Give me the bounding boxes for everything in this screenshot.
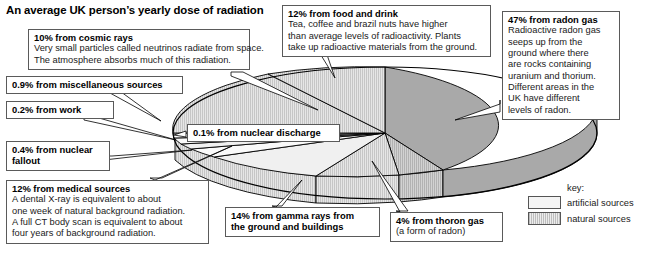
callout-nuclear-fallout: 0.4% from nuclear fallout <box>6 141 110 171</box>
leader-work <box>84 116 176 140</box>
callout-thoron-line-1: (a form of radon) <box>396 226 498 237</box>
callout-radon-line-7: UK have different <box>508 93 615 104</box>
legend-item-natural-sources: natural sources <box>528 212 634 225</box>
callout-food-line-1: Tea, coffee and brazil nuts have higher <box>288 19 486 30</box>
callout-gamma-heading-2: the ground and buildings <box>231 221 375 232</box>
callout-cosmic-heading: 10% from cosmic rays <box>34 32 245 43</box>
callout-thoron-body: (a form of radon) <box>396 226 498 237</box>
callout-nuclear-discharge: 0.1% from nuclear discharge <box>187 124 340 142</box>
callout-radon-line-8: levels of radon. <box>508 105 615 116</box>
callout-food-line-3: take up radioactive materials from the g… <box>288 42 486 53</box>
callout-thoron-gas: 4% from thoron gas (a form of radon) <box>390 212 503 242</box>
legend-title: key: <box>567 183 634 193</box>
callout-nuclear-heading: 0.1% from nuclear discharge <box>193 127 335 138</box>
legend-label-natural: natural sources <box>567 214 631 224</box>
callout-cosmic-body: Very small particles called neutrinos ra… <box>34 43 245 66</box>
callout-misc-heading: 0.9% from miscellaneous sources <box>12 79 178 90</box>
callout-radon-line-5: uranium and thorium. <box>508 71 615 82</box>
callout-fallout-heading: 0.4% from nuclear <box>12 144 105 155</box>
legend-swatch-natural <box>528 212 561 225</box>
legend: key: artificial sources natural sources <box>528 183 634 228</box>
page-title: An average UK person’s yearly dose of ra… <box>6 4 264 16</box>
callout-radon-gas: 47% from radon gas Radioactive radon gas… <box>502 11 620 120</box>
callout-radon-line-3: ground where there <box>508 48 615 59</box>
callout-work: 0.2% from work <box>6 101 114 119</box>
callout-medical-line-1: A dental X-ray is equivalent to about <box>12 194 204 205</box>
callout-thoron-heading: 4% from thoron gas <box>396 215 498 226</box>
callout-medical-body: A dental X-ray is equivalent to about on… <box>12 194 204 239</box>
callout-food-body: Tea, coffee and brazil nuts have higher … <box>288 19 486 53</box>
callout-medical-heading: 12% from medical sources <box>12 183 204 194</box>
callout-radon-heading: 47% from radon gas <box>508 14 615 25</box>
callout-food-heading: 12% from food and drink <box>288 8 486 19</box>
callout-cosmic-line-1: Very small particles called neutrinos ra… <box>34 43 245 54</box>
callout-medical-line-3: A full CT body scan is equivalent to abo… <box>12 217 204 228</box>
callout-work-heading: 0.2% from work <box>12 104 109 115</box>
legend-item-artificial-sources: artificial sources <box>528 196 634 209</box>
legend-swatch-artificial <box>528 196 561 209</box>
radiation-pie-figure: An average UK person’s yearly dose of ra… <box>0 0 656 262</box>
callout-food-line-2: than average levels of radioactivity. Pl… <box>288 31 486 42</box>
callout-gamma-rays: 14% from gamma rays from the ground and … <box>225 207 380 237</box>
callout-miscellaneous-sources: 0.9% from miscellaneous sources <box>6 76 183 94</box>
callout-cosmic-rays: 10% from cosmic rays Very small particle… <box>28 29 250 70</box>
callout-radon-line-2: seeps up from the <box>508 37 615 48</box>
callout-medical-sources: 12% from medical sources A dental X-ray … <box>6 180 209 244</box>
callout-radon-line-6: Different areas in the <box>508 82 615 93</box>
legend-label-artificial: artificial sources <box>567 198 634 208</box>
callout-medical-line-2: one week of natural background radiation… <box>12 206 204 217</box>
callout-radon-line-1: Radioactive radon gas <box>508 25 615 36</box>
callout-cosmic-line-2: The atmosphere absorbs much of this radi… <box>34 55 245 66</box>
callout-radon-body: Radioactive radon gas seeps up from the … <box>508 25 615 116</box>
callout-food-and-drink: 12% from food and drink Tea, coffee and … <box>282 5 491 57</box>
callout-gamma-heading: 14% from gamma rays from <box>231 210 375 221</box>
callout-fallout-heading-2: fallout <box>12 155 105 166</box>
callout-radon-line-4: are rocks containing <box>508 59 615 70</box>
callout-medical-line-4: four years of background radiation. <box>12 228 204 239</box>
